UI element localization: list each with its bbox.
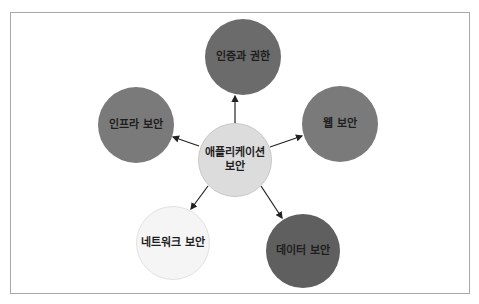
node-auth: 인증과 권한 [205,19,281,95]
arrow-to-network [191,186,208,209]
arrow-to-infra [173,137,199,146]
node-web: 웹 보안 [302,86,378,162]
node-infra-label: 인프라 보안 [109,118,163,132]
node-web-label: 웹 보안 [323,117,357,131]
node-data: 데이터 보안 [266,214,340,288]
node-center-label-line2: 보안 [225,160,245,174]
arrow-to-web [270,136,302,147]
node-infra: 인프라 보안 [98,87,174,163]
arrow-to-data [261,186,282,218]
node-center-label-line1: 애플리케이션 [205,146,265,160]
node-data-label: 데이터 보안 [276,244,330,258]
node-network-label: 네트워크 보안 [141,236,205,250]
node-center: 애플리케이션 보안 [198,123,272,197]
node-auth-label: 인증과 권한 [216,50,270,64]
node-network: 네트워크 보안 [136,206,210,280]
